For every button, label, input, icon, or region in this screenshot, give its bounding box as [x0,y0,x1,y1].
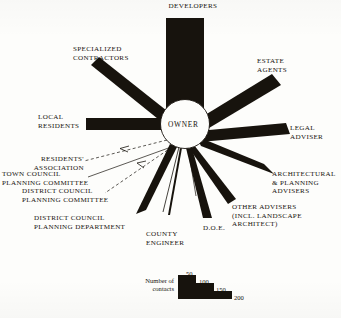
label-district-council-planning-committee: DISTRICT COUNCIL PLANNING COMMITTEE [22,187,138,204]
label-local-residents: LOCAL RESIDENTS [38,113,88,130]
legend-tick-150: 150 [216,286,226,293]
legend-tick-50: 50 [186,270,193,277]
label-specialized-contractors: SPECIALIZED CONTRACTORS [73,45,167,62]
arrowhead-district-council-planning-committee [137,161,146,168]
legend-title: Number of contacts [108,277,174,294]
label-developers: DEVELOPERS [150,2,236,11]
legend-tick-200: 200 [234,294,244,301]
owner-label: OWNER [168,120,199,129]
label-legal-adviser: LEGAL ADVISER [290,124,340,141]
label-district-council-planning-department: DISTRICT COUNCIL PLANNING DEPARTMENT [34,214,158,231]
label-other-advisers: OTHER ADVISERS (INCL. LANDSCAPE ARCHITEC… [232,203,336,229]
label-town-council-planning-committee: TOWN COUNCIL PLANNING COMMITTEE [2,170,118,187]
label-estate-agents: ESTATE AGENTS [257,57,321,74]
radial-contact-diagram: OWNER DEVELOPERS SPECIALIZED CONTRACTORS… [0,0,341,318]
label-county-engineer: COUNTY ENGINEER [146,230,204,247]
legend-tick-100: 100 [199,278,209,285]
label-architectural-planning-advisers: ARCHITECTURAL & PLANNING ADVISERS [272,170,341,196]
label-doe: D.O.E. [203,224,233,233]
